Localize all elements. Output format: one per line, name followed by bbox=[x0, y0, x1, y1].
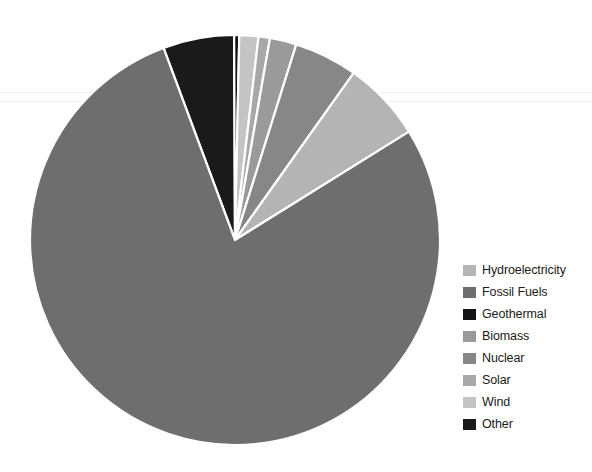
legend-item-label: Other bbox=[482, 418, 513, 431]
legend-item[interactable]: Geothermal bbox=[463, 303, 589, 325]
legend-swatch-icon bbox=[463, 331, 476, 342]
legend-item-label: Solar bbox=[482, 374, 511, 387]
legend-item-label: Biomass bbox=[482, 330, 529, 343]
legend-swatch-icon bbox=[463, 353, 476, 364]
legend-item[interactable]: Other bbox=[463, 413, 589, 435]
legend-swatch-icon bbox=[463, 375, 476, 386]
chart-legend: HydroelectricityFossil FuelsGeothermalBi… bbox=[463, 259, 589, 435]
legend-item-label: Fossil Fuels bbox=[482, 286, 547, 299]
legend-item-label: Geothermal bbox=[482, 308, 546, 321]
legend-item-label: Nuclear bbox=[482, 352, 524, 365]
pie-svg bbox=[0, 0, 450, 472]
legend-swatch-icon bbox=[463, 265, 476, 276]
legend-item[interactable]: Fossil Fuels bbox=[463, 281, 589, 303]
legend-item[interactable]: Solar bbox=[463, 369, 589, 391]
legend-swatch-icon bbox=[463, 309, 476, 320]
legend-item[interactable]: Biomass bbox=[463, 325, 589, 347]
pie-chart-figure: HydroelectricityFossil FuelsGeothermalBi… bbox=[0, 0, 592, 472]
legend-swatch-icon bbox=[463, 397, 476, 408]
legend-item-label: Wind bbox=[482, 396, 510, 409]
legend-item-label: Hydroelectricity bbox=[482, 264, 566, 277]
pie-plot-area bbox=[0, 0, 450, 472]
legend-item[interactable]: Hydroelectricity bbox=[463, 259, 589, 281]
legend-item[interactable]: Wind bbox=[463, 391, 589, 413]
legend-item[interactable]: Nuclear bbox=[463, 347, 589, 369]
legend-swatch-icon bbox=[463, 419, 476, 430]
legend-swatch-icon bbox=[463, 287, 476, 298]
